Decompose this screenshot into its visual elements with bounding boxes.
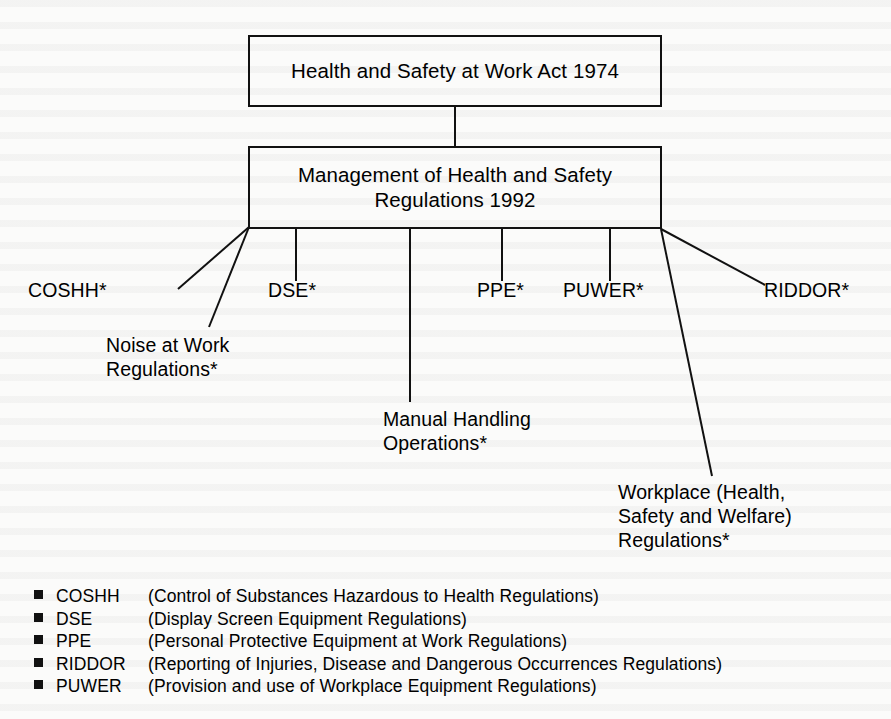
connector-riddor <box>661 229 765 285</box>
node-health-and-safety-at-work-act: Health and Safety at Work Act 1974 <box>248 35 662 107</box>
branch-label-puwer: PUWER* <box>563 279 644 303</box>
node-label: Management of Health and Safety Regulati… <box>298 163 612 211</box>
branch-label-coshh: COSHH* <box>28 279 107 303</box>
connector-workplace <box>661 229 712 476</box>
legend-description: (Personal Protective Equipment at Work R… <box>148 631 567 652</box>
legend-abbr: COSHH <box>56 586 148 607</box>
legend: COSHH (Control of Substances Hazardous t… <box>34 586 874 699</box>
diagram-page: Health and Safety at Work Act 1974 Manag… <box>0 0 891 719</box>
legend-row: PUWER (Provision and use of Workplace Eq… <box>34 676 874 699</box>
legend-row: RIDDOR (Reporting of Injuries, Disease a… <box>34 654 874 677</box>
legend-description: (Display Screen Equipment Regulations) <box>148 609 467 630</box>
square-bullet-icon <box>34 635 43 644</box>
branch-label-ppe: PPE* <box>477 279 524 303</box>
branch-label-manual-handling: Manual Handling Operations* <box>383 408 531 456</box>
legend-abbr: PPE <box>56 631 148 652</box>
branch-label-riddor: RIDDOR* <box>764 279 849 303</box>
connector-coshh <box>178 227 249 289</box>
node-label: Health and Safety at Work Act 1974 <box>291 59 619 83</box>
square-bullet-icon <box>34 658 43 667</box>
connector-noise <box>209 227 249 327</box>
square-bullet-icon <box>34 590 43 599</box>
legend-row: PPE (Personal Protective Equipment at Wo… <box>34 631 874 654</box>
legend-row: COSHH (Control of Substances Hazardous t… <box>34 586 874 609</box>
square-bullet-icon <box>34 680 43 689</box>
legend-abbr: RIDDOR <box>56 654 148 675</box>
branch-label-workplace: Workplace (Health, Safety and Welfare) R… <box>618 481 792 552</box>
legend-description: (Provision and use of Workplace Equipmen… <box>148 676 597 697</box>
legend-abbr: PUWER <box>56 676 148 697</box>
legend-description: (Reporting of Injuries, Disease and Dang… <box>148 654 722 675</box>
node-management-of-health-and-safety-regulations: Management of Health and Safety Regulati… <box>248 146 662 229</box>
legend-description: (Control of Substances Hazardous to Heal… <box>148 586 599 607</box>
square-bullet-icon <box>34 613 43 622</box>
branch-label-dse: DSE* <box>268 279 316 303</box>
branch-label-noise-at-work: Noise at Work Regulations* <box>106 334 229 382</box>
legend-row: DSE (Display Screen Equipment Regulation… <box>34 609 874 632</box>
legend-abbr: DSE <box>56 609 148 630</box>
